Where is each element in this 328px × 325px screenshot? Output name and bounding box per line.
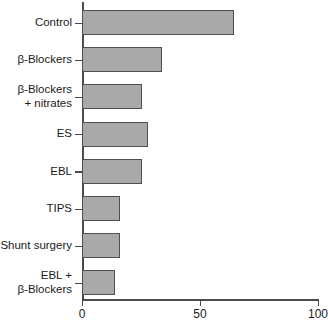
x-axis-tick-label: 100	[308, 307, 328, 321]
y-tick	[75, 209, 82, 210]
x-axis-tick-label: 0	[79, 307, 86, 321]
y-axis-label: β-Blockers	[0, 53, 72, 67]
y-tick	[75, 283, 82, 284]
x-tick	[318, 300, 319, 306]
bar-β-blockers	[82, 47, 162, 72]
y-axis-label: Shunt surgery	[0, 239, 72, 253]
y-axis-label: EBL	[0, 165, 72, 179]
bar-β-blockers-+-nitrates	[82, 84, 142, 109]
bar-shunt-surgery	[82, 233, 120, 258]
bar-rect	[82, 159, 142, 184]
y-axis-label: EBL + β-Blockers	[0, 269, 72, 296]
bar-ebl-+-β-blockers	[82, 270, 115, 295]
y-tick	[75, 60, 82, 61]
x-axis-tick-label: 50	[193, 307, 206, 321]
y-tick	[75, 23, 82, 24]
bar-control	[82, 10, 234, 35]
y-tick	[75, 97, 82, 98]
bar-rect	[82, 233, 120, 258]
bar-rect	[82, 122, 148, 147]
y-tick	[75, 246, 82, 247]
bar-rect	[82, 270, 115, 295]
bar-es	[82, 122, 148, 147]
x-tick	[82, 300, 83, 306]
y-axis-label: Control	[0, 16, 72, 30]
bar-rect	[82, 47, 162, 72]
y-axis-label: β-Blockers + nitrates	[0, 83, 72, 110]
bar-ebl	[82, 159, 142, 184]
bar-chart: Controlβ-Blockersβ-Blockers + nitratesES…	[0, 0, 328, 325]
bar-tips	[82, 196, 120, 221]
bar-rect	[82, 10, 234, 35]
x-tick	[200, 300, 201, 306]
bar-rect	[82, 84, 142, 109]
y-axis-label: TIPS	[0, 202, 72, 216]
y-tick	[75, 171, 82, 172]
bar-rect	[82, 196, 120, 221]
y-axis-label: ES	[0, 127, 72, 141]
y-tick	[75, 134, 82, 135]
